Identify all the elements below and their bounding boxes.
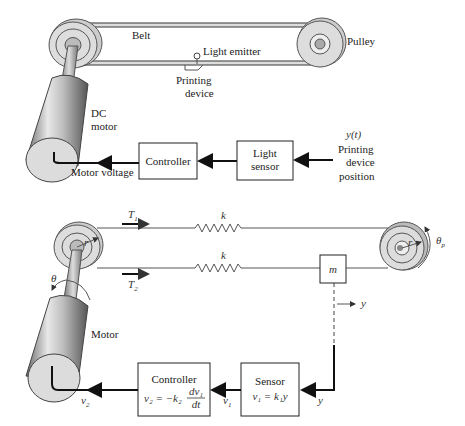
printing-device-label-1: Printing xyxy=(176,74,212,86)
belt-drive-diagram: Belt Pulley Light emitter Printing devic… xyxy=(0,0,465,426)
sensor-title: Sensor xyxy=(255,375,285,387)
spring-upper-label: k xyxy=(221,209,227,221)
controller-label: Controller xyxy=(145,155,191,167)
position-label-3: position xyxy=(339,170,375,182)
v1-label: v1 xyxy=(223,394,231,409)
light-emitter-label: Light emitter xyxy=(203,45,261,57)
position-label-1: Printing xyxy=(338,143,374,155)
belt-upper xyxy=(72,23,322,27)
theta-label: θ xyxy=(51,272,57,284)
controller-title: Controller xyxy=(151,373,197,385)
motor-voltage-label: Motor voltage xyxy=(71,166,134,178)
position-signal-label: y(t) xyxy=(345,128,362,141)
sensor-input-label: y xyxy=(317,394,323,406)
belt-lower xyxy=(80,61,320,65)
controller-eq-lhs: v₂ = −k₂ xyxy=(144,392,182,404)
dc-motor-label-2: motor xyxy=(91,120,118,132)
radius-right-label: r xyxy=(408,236,413,248)
spring-upper xyxy=(195,224,241,232)
light-sensor-label-2: sensor xyxy=(251,160,279,172)
theta-p-label: θp xyxy=(436,234,445,249)
light-sensor-label-1: Light xyxy=(253,147,277,159)
motor-model xyxy=(26,295,88,402)
dc-motor-label-1: DC xyxy=(91,107,106,119)
feedback-wire xyxy=(302,345,334,390)
bottom-mechanical-model: m r r θp θ Mot xyxy=(26,208,445,402)
belt-label: Belt xyxy=(132,29,150,41)
radius-left-label: r xyxy=(84,236,89,248)
right-pulley xyxy=(297,18,346,67)
tension1-label: T1 xyxy=(128,208,138,223)
controller-eq-denominator: dt xyxy=(192,398,202,410)
top-block-diagram: Controller Light sensor Motor voltage y(… xyxy=(54,128,375,182)
controller-eq-numerator: dv₁ xyxy=(189,385,203,397)
displacement-label: y xyxy=(360,297,366,309)
position-label-2: device xyxy=(346,156,375,168)
top-belt-system: Belt Pulley Light emitter Printing devic… xyxy=(26,18,376,182)
spring-lower-label: k xyxy=(221,249,227,261)
spring-lower xyxy=(195,264,241,272)
tension2-label: T2 xyxy=(128,278,138,293)
light-emitter-icon xyxy=(194,53,200,59)
motor-label: Motor xyxy=(91,328,119,340)
pulley-label: Pulley xyxy=(347,35,376,47)
mass-label: m xyxy=(329,263,337,275)
right-pulley-model: r θp xyxy=(380,222,445,270)
v2-label: v2 xyxy=(81,394,90,409)
printing-device-label-2: device xyxy=(185,87,214,99)
sensor-equation: v₁ = k₁y xyxy=(252,390,287,402)
bottom-block-diagram: y Sensor v₁ = k₁y v1 Controller v₂ = −k₂… xyxy=(52,345,334,416)
